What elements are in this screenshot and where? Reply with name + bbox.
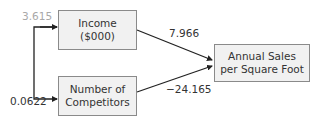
label-income-value: 3.615 bbox=[22, 10, 52, 22]
node-competitors-line1: Number of bbox=[65, 83, 129, 96]
node-income: Income ($000) bbox=[58, 10, 137, 50]
label-competitors-value: 0.0622 bbox=[10, 95, 47, 107]
node-sales: Annual Sales per Square Foot bbox=[214, 44, 310, 82]
node-income-line1: Income bbox=[78, 17, 117, 30]
label-competitors-coef: −24.165 bbox=[166, 83, 212, 95]
node-sales-line2: per Square Foot bbox=[220, 63, 304, 76]
node-income-line2: ($000) bbox=[78, 30, 117, 43]
node-sales-line1: Annual Sales bbox=[220, 50, 304, 63]
label-income-coef: 7.966 bbox=[169, 27, 199, 39]
node-competitors-line2: Competitors bbox=[65, 96, 129, 109]
correlation-bracket bbox=[34, 27, 57, 99]
node-competitors: Number of Competitors bbox=[58, 76, 137, 116]
